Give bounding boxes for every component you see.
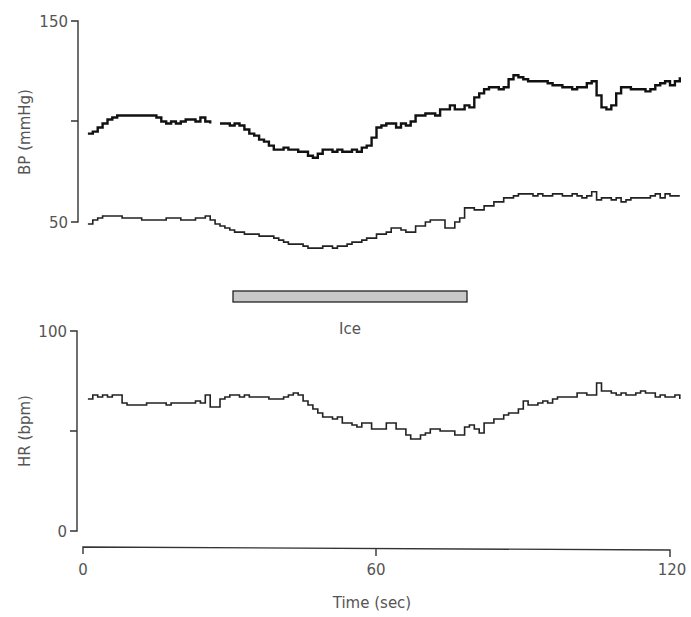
x-tick-60: 60 xyxy=(366,561,385,579)
hr-y-axis-label: HR (bpm) xyxy=(16,395,34,467)
x-tick-120: 120 xyxy=(658,561,687,579)
hr-tick-100: 100 xyxy=(38,323,67,341)
x-axis: 0 60 120 Time (sec) xyxy=(78,547,686,612)
hr-tick-0: 0 xyxy=(57,523,67,541)
ice-bar xyxy=(233,291,467,302)
x-axis-label: Time (sec) xyxy=(332,594,411,612)
bp-tick-50: 50 xyxy=(49,214,68,232)
systolic-bp-trace xyxy=(88,75,680,157)
ice-label: Ice xyxy=(339,320,361,338)
physiology-chart: 150 50 BP (mmHg) Ice 100 0 HR (bpm) 0 60… xyxy=(0,0,691,617)
bp-tick-150: 150 xyxy=(39,13,68,31)
bp-y-axis-label: BP (mmHg) xyxy=(16,89,34,175)
hr-y-axis xyxy=(70,331,77,531)
bp-panel: 150 50 BP (mmHg) xyxy=(16,13,680,248)
ice-annotation: Ice xyxy=(233,291,467,338)
x-axis-line xyxy=(83,547,670,557)
bp-y-axis xyxy=(71,21,78,222)
hr-panel: 100 0 HR (bpm) xyxy=(16,323,680,541)
x-tick-0: 0 xyxy=(78,561,88,579)
diastolic-bp-trace xyxy=(88,192,680,248)
heart-rate-trace xyxy=(88,383,680,439)
